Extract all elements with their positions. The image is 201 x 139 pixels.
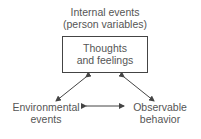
obs-line1: Observable [120,101,200,113]
env-line1: Environmental [4,101,88,113]
observable-behavior-label: Observable behavior [120,101,200,125]
environmental-events-label: Environmental events [4,101,88,125]
env-line2: events [4,113,88,125]
obs-line2: behavior [120,113,200,125]
arrow-box-to-behavior [124,77,154,101]
arrow-box-to-environmental [56,77,86,101]
